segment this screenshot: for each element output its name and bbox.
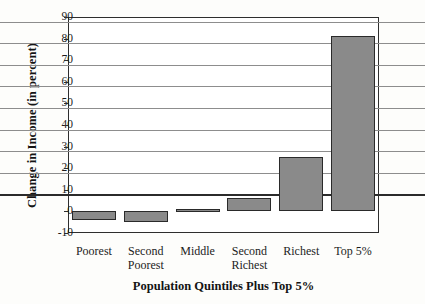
y-tick-mark [64,147,68,148]
bar-top-5- [331,36,375,211]
x-axis-title: Population Quintiles Plus Top 5% [68,279,379,294]
y-tick-mark [64,168,68,169]
bar-middle [176,209,220,212]
x-tick-label: Second Richest [224,244,276,272]
y-tick-label: 0 [41,205,73,217]
y-tick-label: -10 [41,227,73,239]
y-tick-mark [64,82,68,83]
y-tick-mark [64,39,68,40]
x-tick-label: Second Poorest [120,244,172,272]
y-tick-mark [64,233,68,234]
y-tick-mark [64,211,68,212]
y-axis-title: Change in Income (in percent) [25,16,40,236]
y-tick-mark [64,125,68,126]
y-tick-mark [64,103,68,104]
y-tick-mark [64,17,68,18]
bar-poorest [72,211,116,220]
y-tick-mark [64,190,68,191]
x-tick-label: Poorest [68,244,120,258]
bar-second-poorest [124,211,168,222]
x-tick-label: Top 5% [327,244,379,258]
bar-chart-figure: Change in Income (in percent) 9080706050… [0,0,425,304]
y-tick-mark [64,60,68,61]
bar-richest [279,157,323,211]
bar-second-richest [227,198,271,211]
gridline-80 [0,22,425,23]
x-tick-label: Richest [275,244,327,258]
x-tick-label: Middle [172,244,224,258]
